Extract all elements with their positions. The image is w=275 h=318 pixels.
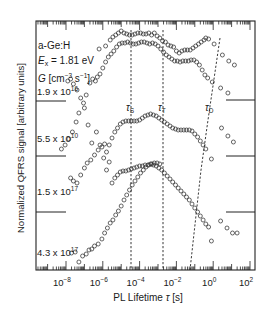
data-point: [155, 34, 159, 38]
data-point: [200, 68, 204, 72]
x-tick-label: 10−2: [163, 276, 181, 288]
data-point: [79, 96, 83, 100]
data-point: [112, 49, 116, 53]
data-point: [209, 239, 213, 243]
data-point: [89, 158, 93, 162]
data-point: [220, 53, 224, 57]
data-point: [93, 244, 97, 248]
data-point: [225, 226, 229, 230]
data-point: [197, 42, 201, 46]
data-point: [209, 157, 213, 161]
data-point: [188, 48, 192, 52]
data-point: [226, 134, 230, 138]
curve-label-2: 5.5 x 1010: [37, 132, 78, 144]
data-point: [199, 40, 203, 44]
data-point: [133, 179, 137, 183]
curve-label-1: 1.9 x 1016: [37, 85, 78, 97]
data-point: [105, 226, 109, 230]
data-point: [191, 46, 195, 50]
data-point: [130, 183, 134, 187]
data-point: [102, 156, 106, 160]
data-point: [74, 120, 78, 124]
data-point: [82, 101, 86, 105]
data-point: [91, 77, 95, 81]
data-point: [77, 260, 81, 264]
data-point: [196, 210, 200, 214]
data-point: [79, 173, 83, 177]
data-point: [220, 126, 224, 130]
data-point: [93, 153, 97, 157]
x-tick-label: 10−8: [53, 276, 71, 288]
data-point: [119, 204, 123, 208]
data-point: [97, 47, 101, 51]
tau-s-label: τS: [126, 102, 135, 114]
data-point: [227, 59, 231, 63]
generation-rate-label: G [cm−3 s−1]: [38, 72, 90, 84]
data-point: [94, 130, 98, 134]
data-point: [196, 135, 200, 139]
data-point: [177, 51, 181, 55]
data-point: [174, 49, 178, 53]
data-point: [111, 218, 115, 222]
data-point: [116, 209, 120, 213]
qfrs-chart: a-Ge:H Ex = 1.81 eV G [cm−3 s−1] 1.9 x 1…: [0, 0, 275, 318]
data-point: [198, 214, 202, 218]
data-point: [103, 142, 107, 146]
data-point: [103, 231, 107, 235]
x-tick-labels: 10−810−610−410−2100102: [53, 276, 253, 288]
curve-label-3: 1.5 x 1017: [37, 185, 78, 197]
data-point: [140, 116, 144, 120]
data-point: [212, 42, 216, 46]
curve-label-4: 4.3 x 1017: [37, 246, 78, 258]
tau-guide-lines: [131, 30, 220, 270]
data-point: [90, 141, 94, 145]
excitation-label: Ex = 1.81 eV: [38, 55, 94, 67]
data-point: [235, 231, 239, 235]
data-point: [96, 242, 100, 246]
data-point: [66, 79, 70, 83]
data-point: [105, 150, 109, 154]
data-point: [187, 198, 191, 202]
data-point: [59, 147, 63, 151]
data-point: [116, 31, 120, 35]
data-point: [84, 93, 88, 97]
data-point: [193, 206, 197, 210]
data-point: [197, 63, 201, 67]
x-axis-label: PL Lifetime τ [s]: [113, 292, 183, 303]
data-point: [219, 219, 223, 223]
data-point: [82, 106, 86, 110]
data-point: [93, 79, 97, 83]
data-point: [107, 143, 111, 147]
data-point: [100, 237, 104, 241]
data-point: [104, 60, 108, 64]
data-point: [231, 231, 235, 235]
data-point: [105, 168, 109, 172]
data-point: [157, 166, 161, 170]
x-tick-label: 100: [202, 276, 217, 288]
data-point: [96, 148, 100, 152]
data-point: [98, 72, 102, 76]
x-tick-label: 10−4: [127, 276, 145, 288]
data-point: [157, 116, 161, 120]
data-point: [165, 122, 169, 126]
data-point: [201, 218, 205, 222]
data-point: [104, 44, 108, 48]
data-point: [232, 63, 236, 67]
data-point: [192, 58, 196, 62]
data-point: [219, 86, 223, 90]
data-point: [116, 126, 120, 130]
data-point: [113, 130, 117, 134]
data-point: [190, 202, 194, 206]
tau-t-label: τT: [158, 102, 166, 114]
data-point: [207, 225, 211, 229]
tau-d-label: τD: [205, 102, 214, 114]
data-point: [168, 124, 172, 128]
series-4: [69, 142, 240, 243]
data-point: [111, 35, 115, 39]
data-point: [114, 213, 118, 217]
data-point: [82, 166, 86, 170]
data-point: [231, 140, 235, 144]
data-point: [136, 175, 140, 179]
data-point: [150, 33, 154, 37]
data-point: [114, 33, 118, 37]
